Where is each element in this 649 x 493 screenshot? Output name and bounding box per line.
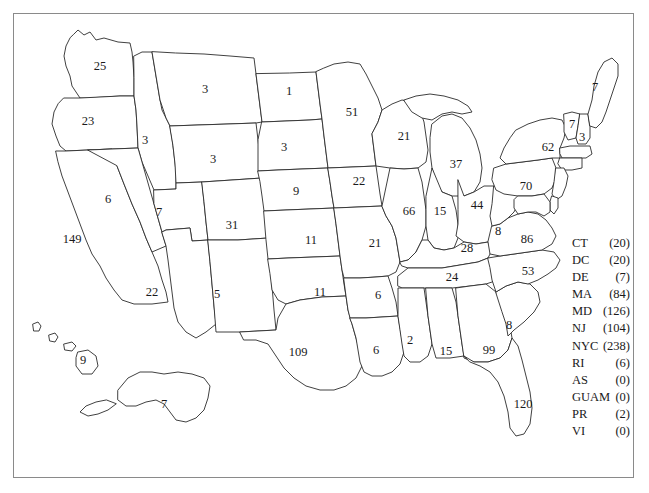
state-shape-ma bbox=[560, 146, 592, 158]
state-shape-or bbox=[52, 96, 138, 151]
state-value-ut: 7 bbox=[156, 206, 162, 219]
state-value-mn: 51 bbox=[346, 106, 359, 119]
legend-row: DC(20) bbox=[572, 253, 630, 270]
legend-abbr: DC bbox=[572, 253, 589, 268]
us-map-outlines bbox=[0, 0, 649, 493]
legend-value: (0) bbox=[615, 390, 630, 405]
state-value-il: 66 bbox=[403, 205, 416, 218]
state-value-wv: 8 bbox=[495, 225, 501, 238]
legend-row: CT(20) bbox=[572, 236, 630, 253]
state-value-ks: 11 bbox=[305, 234, 317, 247]
legend-row: NJ(104) bbox=[572, 321, 630, 338]
legend-value: (238) bbox=[603, 339, 630, 354]
us-map-figure: 2523333671492231513911111095122216621662… bbox=[0, 0, 649, 493]
state-value-co: 31 bbox=[226, 219, 239, 232]
legend-value: (126) bbox=[603, 304, 630, 319]
legend-abbr: VI bbox=[572, 424, 585, 439]
legend-row: RI(6) bbox=[572, 356, 630, 373]
state-value-oh: 44 bbox=[471, 199, 484, 212]
state-value-mt: 3 bbox=[202, 83, 208, 96]
state-value-sd: 3 bbox=[281, 141, 287, 154]
state-value-wa: 25 bbox=[94, 60, 107, 73]
state-shape-ak-aleutians bbox=[80, 400, 116, 416]
state-value-in: 15 bbox=[434, 205, 447, 218]
legend-abbr: MD bbox=[572, 304, 592, 319]
legend-row: MA(84) bbox=[572, 287, 630, 304]
legend-value: (0) bbox=[615, 424, 630, 439]
legend-row: GUAM(0) bbox=[572, 390, 630, 407]
state-value-ia: 22 bbox=[353, 175, 366, 188]
state-shape-ny bbox=[500, 118, 566, 164]
legend-value: (7) bbox=[615, 270, 630, 285]
legend-row: PR(2) bbox=[572, 407, 630, 424]
legend-abbr: NJ bbox=[572, 321, 586, 336]
state-value-nv: 6 bbox=[105, 193, 111, 206]
legend-row: VI(0) bbox=[572, 424, 630, 441]
legend-value: (2) bbox=[615, 407, 630, 422]
state-value-ca: 149 bbox=[63, 233, 82, 246]
legend-abbr: GUAM bbox=[572, 390, 610, 405]
legend-abbr: RI bbox=[572, 356, 585, 371]
legend-row: AS(0) bbox=[572, 373, 630, 390]
state-value-ne: 9 bbox=[293, 185, 299, 198]
state-value-sc: 8 bbox=[506, 319, 512, 332]
state-value-nh: 3 bbox=[579, 131, 585, 144]
state-shape-de bbox=[550, 196, 558, 214]
state-value-or: 23 bbox=[82, 115, 95, 128]
legend-value: (20) bbox=[609, 236, 630, 251]
state-value-tn: 24 bbox=[446, 271, 459, 284]
state-value-id: 3 bbox=[142, 134, 148, 147]
state-value-me: 7 bbox=[592, 81, 598, 94]
state-value-vt: 7 bbox=[569, 118, 575, 131]
state-value-ga: 99 bbox=[483, 344, 496, 357]
state-shape-hi-maui bbox=[64, 342, 76, 351]
state-value-wy: 3 bbox=[210, 153, 216, 166]
state-shape-nm bbox=[208, 238, 276, 332]
state-shape-sd bbox=[258, 119, 328, 171]
state-value-ny: 62 bbox=[542, 141, 555, 154]
state-value-ar: 6 bbox=[375, 289, 381, 302]
state-value-ky: 28 bbox=[461, 242, 474, 255]
state-value-al: 15 bbox=[440, 345, 453, 358]
legend-value: (20) bbox=[609, 253, 630, 268]
state-value-nm: 5 bbox=[214, 288, 220, 301]
state-value-fl: 120 bbox=[514, 398, 533, 411]
state-value-nd: 1 bbox=[286, 85, 292, 98]
state-value-va: 86 bbox=[521, 233, 534, 246]
legend-value: (84) bbox=[609, 287, 630, 302]
legend-value: (6) bbox=[615, 356, 630, 371]
state-value-wi: 21 bbox=[398, 130, 411, 143]
legend-abbr: PR bbox=[572, 407, 587, 422]
state-value-ms: 2 bbox=[407, 334, 413, 347]
state-shape-ks bbox=[264, 208, 340, 259]
state-value-mo: 21 bbox=[369, 237, 382, 250]
legend-row: NYC(238) bbox=[572, 339, 630, 356]
legend-abbr: AS bbox=[572, 373, 588, 388]
legend-abbr: CT bbox=[572, 236, 588, 251]
legend-abbr: DE bbox=[572, 270, 589, 285]
legend-abbr: NYC bbox=[572, 339, 598, 354]
legend-row: MD(126) bbox=[572, 304, 630, 321]
jurisdiction-legend: CT(20)DC(20)DE(7)MA(84)MD(126)NJ(104)NYC… bbox=[572, 236, 630, 441]
state-value-ak: 7 bbox=[161, 398, 167, 411]
legend-value: (0) bbox=[615, 373, 630, 388]
state-value-mi: 37 bbox=[450, 158, 463, 171]
state-shape-az bbox=[162, 228, 216, 338]
state-value-nc: 53 bbox=[522, 265, 535, 278]
state-value-hi: 9 bbox=[80, 354, 86, 367]
legend-value: (104) bbox=[603, 321, 630, 336]
state-value-la: 6 bbox=[373, 344, 379, 357]
state-value-tx: 109 bbox=[289, 346, 308, 359]
state-value-pa: 70 bbox=[520, 180, 533, 193]
state-shape-ar bbox=[344, 276, 398, 318]
legend-row: DE(7) bbox=[572, 270, 630, 287]
legend-abbr: MA bbox=[572, 287, 592, 302]
state-shape-hi-kauai bbox=[33, 322, 41, 331]
state-value-az: 22 bbox=[146, 286, 159, 299]
state-shape-hi-oahu bbox=[49, 333, 58, 342]
state-value-ok: 11 bbox=[314, 286, 326, 299]
